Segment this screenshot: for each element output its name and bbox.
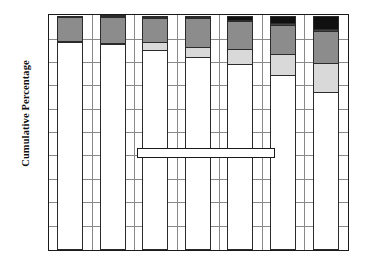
plot-inner bbox=[49, 15, 348, 250]
stacked-bar bbox=[313, 16, 339, 250]
bar-segment bbox=[313, 92, 339, 250]
bar-segment bbox=[270, 16, 296, 23]
chart-legend bbox=[137, 148, 275, 158]
stacked-bar bbox=[100, 15, 126, 250]
bar-segment bbox=[142, 42, 168, 50]
stacked-bar bbox=[270, 16, 296, 250]
gridline-vertical bbox=[134, 15, 135, 250]
bar-segment bbox=[270, 75, 296, 250]
bar-segment bbox=[270, 25, 296, 54]
stacked-bar bbox=[142, 16, 168, 250]
bar-segment bbox=[313, 16, 339, 29]
bar-segment bbox=[270, 54, 296, 75]
bar-segment bbox=[100, 17, 126, 42]
bar-segment bbox=[313, 63, 339, 92]
stacked-bar bbox=[185, 16, 211, 250]
bar-segment bbox=[313, 31, 339, 63]
gridline-vertical bbox=[304, 15, 305, 250]
bar-segment bbox=[57, 42, 83, 250]
bar-segment bbox=[185, 47, 211, 58]
bar-segment bbox=[142, 18, 168, 43]
plot-area bbox=[48, 14, 349, 251]
bar-segment bbox=[227, 21, 253, 49]
bar-segment bbox=[227, 49, 253, 63]
bar-segment bbox=[57, 17, 83, 42]
gridline-vertical bbox=[219, 15, 220, 250]
gridline-vertical bbox=[262, 15, 263, 250]
stacked-bar bbox=[57, 16, 83, 250]
y-axis-title: Cumulative Percentage bbox=[20, 29, 31, 199]
stacked-bar bbox=[227, 16, 253, 250]
gridline-vertical bbox=[92, 15, 93, 250]
gridline-vertical bbox=[177, 15, 178, 250]
bar-segment bbox=[100, 44, 126, 250]
cumulative-percentage-bar-chart: Cumulative Percentage bbox=[0, 0, 372, 278]
bar-segment bbox=[185, 18, 211, 47]
